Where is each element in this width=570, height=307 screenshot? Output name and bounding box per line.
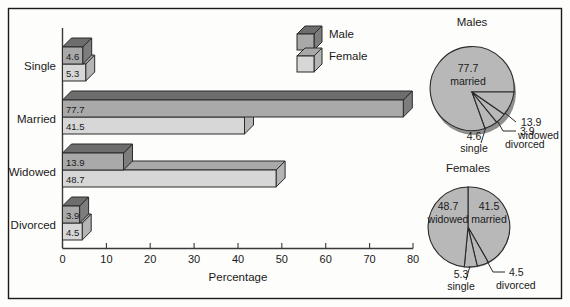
x-tick-label: 70 [363,253,375,265]
bar-value-label: 41.5 [66,121,85,132]
bar-value-label: 77.7 [66,104,85,115]
x-tick-label: 40 [232,253,244,265]
bar-value-label: 4.6 [66,51,79,62]
bar-value-label: 48.7 [66,174,85,185]
legend-label-male: Male [329,28,354,40]
bar-male-married: 77.7 [63,91,413,117]
bar-value-label: 3.9 [66,210,79,221]
pie-callout-value-single: 5.3 [454,268,469,280]
pie-inside-name-widowed: widowed [427,213,469,225]
bar-top-face [63,91,413,100]
x-axis-title: Percentage [209,271,268,283]
pie-slice-widowed [428,187,468,267]
bar-value-label: 5.3 [66,68,79,79]
bar-group-widowed: 48.7 13.9 [63,144,286,187]
legend-label-female: Female [329,50,367,62]
x-tick-label: 60 [320,253,332,265]
bar-front-face [63,170,277,187]
pie-inside-value-married: 77.7 [458,62,479,74]
bar-front-face [63,100,404,117]
pie-callout-value-single: 4.6 [467,130,482,142]
category-label-married: Married [17,113,56,125]
bar-value-label: 4.5 [66,227,79,238]
x-tick-label: 30 [188,253,200,265]
pie-chart-males: Males 77.7 married 13.9 [430,16,559,154]
bar-top-face [63,144,133,153]
pie-title-females: Females [446,162,490,174]
x-axis-ticks [63,243,414,249]
pie-inside-name-married: married [450,75,486,87]
bar-group-divorced: 4.5 3.9 [63,197,92,240]
x-tick-label: 20 [144,253,156,265]
pie-callout-value-divorced: 4.5 [509,266,524,278]
bar-group-married: 41.5 77.7 [63,91,413,134]
cube-icon-front [297,56,314,72]
chart-svg: 0 10 20 30 40 50 60 70 80 Percentage Sin… [0,0,570,307]
legend-swatch-male[interactable] [297,26,322,50]
pie-callout-name-single: single [447,280,475,292]
pie-inside-value-widowed: 48.7 [438,200,459,212]
pie-callout-name-single: single [460,142,488,154]
bar-male-widowed: 13.9 [63,144,133,170]
figure-canvas: 0 10 20 30 40 50 60 70 80 Percentage Sin… [0,0,570,307]
category-label-widowed: Widowed [9,166,56,178]
x-tick-label: 50 [276,253,288,265]
bar-front-face [63,117,245,134]
x-tick-label: 0 [59,253,65,265]
legend: Male Female [297,26,367,72]
bar-value-label: 13.9 [66,157,85,168]
pie-callout-value-divorced: 3.9 [520,125,535,137]
category-label-divorced: Divorced [11,219,56,231]
pie-title-males: Males [457,16,488,28]
bar-group-single: 5.3 4.6 [63,38,95,81]
pie-inside-name-married: married [471,213,507,225]
category-labels: Single Married Widowed Divorced [9,60,56,231]
pie-callout-name-divorced: divorced [496,279,536,291]
legend-swatch-female[interactable] [297,48,322,72]
pie-inside-value-married: 41.5 [479,200,500,212]
pie-chart-females: Females 48.7 widowed 41.5 married 4.5 [427,162,536,292]
x-tick-label: 10 [100,253,112,265]
pie-callout-name-divorced: divorced [505,138,545,150]
category-label-single: Single [24,60,56,72]
x-tick-label: 80 [407,253,419,265]
